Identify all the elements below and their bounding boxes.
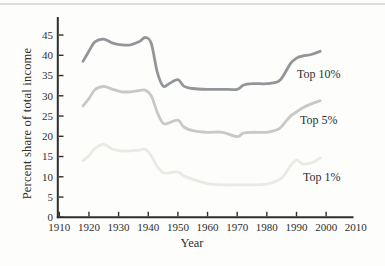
x-tick-label: 1930 (108, 221, 131, 233)
series-line-top-10- (83, 37, 320, 89)
y-tick-label: 30 (42, 90, 54, 102)
x-tick-label: 1910 (48, 221, 71, 233)
y-tick-label: 45 (42, 29, 54, 41)
series-label-top-1-percent: Top 1% (303, 170, 341, 185)
y-tick-label: 20 (42, 130, 54, 142)
x-tick-label: 1970 (226, 221, 249, 233)
income-share-line-chart: 0510152025303540451910192019301940195019… (0, 0, 385, 266)
y-tick-label: 35 (42, 69, 54, 81)
x-tick-label: 2010 (345, 221, 368, 233)
x-tick-label: 1960 (197, 221, 220, 233)
series-line-top-1- (83, 144, 320, 185)
y-tick-label: 25 (42, 110, 54, 122)
x-tick-label: 1990 (286, 221, 309, 233)
x-tick-label: 1920 (78, 221, 101, 233)
x-tick-label: 1980 (256, 221, 279, 233)
x-tick-label: 2000 (315, 221, 338, 233)
x-tick-label: 1940 (137, 221, 160, 233)
y-tick-label: 15 (42, 150, 54, 162)
y-tick-label: 5 (48, 191, 54, 203)
series-label-top-10-percent: Top 10% (297, 67, 341, 82)
series-line-top-5- (83, 86, 320, 136)
y-axis-title: Percent share of total income (20, 34, 35, 214)
y-tick-label: 10 (42, 171, 54, 183)
income-share-figure: 0510152025303540451910192019301940195019… (0, 0, 385, 266)
x-axis-title: Year (132, 236, 252, 251)
x-tick-label: 1950 (167, 221, 190, 233)
y-tick-label: 40 (42, 49, 54, 61)
series-label-top-5-percent: Top 5% (300, 113, 338, 128)
